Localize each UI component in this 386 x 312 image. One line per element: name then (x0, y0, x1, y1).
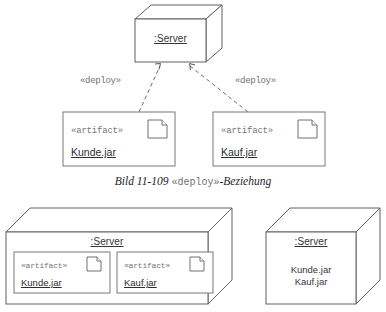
nested-artifact-name-kauf: Kauf.jar (124, 277, 157, 288)
top-server-node-label: :Server (135, 33, 206, 44)
bottom-right-server-node-label: :Server (266, 236, 356, 247)
deploy-dependency-left[interactable] (139, 64, 161, 113)
top-artifact-stereotype-kauf: «artifact» (221, 126, 273, 136)
deploy-label-left: «deploy» (80, 76, 121, 86)
artifact-document-icon (87, 257, 101, 271)
bottom-left-server-node-label: :Server (6, 236, 208, 247)
uml-deployment-diagram: :Server «deploy» «deploy» «artifact» Kun… (0, 0, 386, 312)
caption-prefix: Bild 11-109 (115, 175, 172, 187)
artifact-document-icon (190, 257, 204, 271)
top-artifact-name-kauf: Kauf.jar (221, 146, 257, 158)
artifact-document-icon (148, 120, 167, 138)
caption-suffix: -Beziehung (219, 175, 271, 187)
top-artifact-name-kunde: Kunde.jar (71, 146, 116, 158)
bottom-right-artifact-name-kunde: Kunde.jar (266, 264, 356, 276)
caption-stereotype: «deploy» (171, 177, 219, 188)
bottom-right-server-node[interactable] (266, 208, 380, 304)
bottom-right-artifact-name-kauf: Kauf.jar (266, 276, 356, 288)
nested-artifact-stereotype-kunde: «artifact» (21, 261, 67, 270)
nested-artifact-stereotype-kauf: «artifact» (124, 261, 170, 270)
deploy-label-right: «deploy» (235, 76, 276, 86)
deploy-dependency-right[interactable] (190, 64, 249, 113)
top-artifact-stereotype-kunde: «artifact» (71, 126, 123, 136)
nested-artifact-name-kunde: Kunde.jar (21, 277, 62, 288)
figure-caption: Bild 11-109 «deploy»-Beziehung (0, 175, 386, 188)
artifact-document-icon (298, 120, 317, 138)
